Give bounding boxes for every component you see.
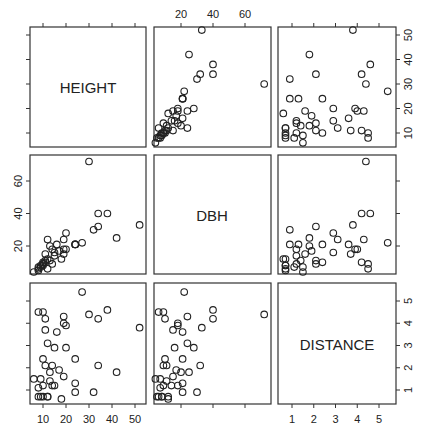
data-point — [345, 241, 352, 248]
data-point — [63, 344, 70, 351]
y-tick-label: 60 — [12, 175, 24, 187]
data-point — [31, 376, 38, 383]
data-point — [210, 307, 217, 314]
x-tick-label: 40 — [207, 8, 219, 20]
data-point — [35, 309, 42, 316]
data-point — [95, 223, 102, 230]
data-point — [384, 88, 391, 95]
y-tick-label: 50 — [402, 29, 414, 41]
data-point — [54, 329, 61, 336]
data-point — [191, 344, 198, 351]
y-tick-label: 40 — [12, 207, 24, 219]
data-point — [287, 241, 294, 248]
data-point — [287, 76, 294, 83]
data-point — [179, 95, 186, 102]
data-point — [367, 61, 374, 68]
panel-height-vs-distance — [278, 27, 396, 147]
x-tick-label: 40 — [106, 413, 118, 425]
data-point — [60, 313, 67, 320]
y-tick-label: 40 — [402, 53, 414, 65]
y-tick-label: 10 — [402, 127, 414, 139]
data-point — [330, 105, 337, 112]
data-point — [42, 316, 49, 323]
data-point — [186, 51, 193, 58]
data-point — [199, 324, 206, 331]
x-tick-label: 3 — [332, 413, 338, 425]
x-tick-label: 50 — [129, 413, 141, 425]
data-point — [90, 227, 97, 234]
data-point — [72, 241, 79, 248]
panel-dbh-vs-distance — [278, 155, 396, 274]
data-point — [171, 344, 178, 351]
data-point — [42, 327, 49, 334]
diag-label-height: HEIGHT — [60, 79, 117, 96]
data-point — [308, 113, 315, 120]
data-point — [179, 329, 186, 336]
data-point — [181, 289, 188, 296]
data-point — [113, 235, 120, 242]
data-point — [184, 125, 191, 132]
data-point — [367, 210, 374, 217]
data-point — [365, 266, 372, 273]
data-point — [49, 362, 56, 369]
y-tick-label: 20 — [402, 102, 414, 114]
data-point — [358, 71, 365, 78]
data-point — [181, 88, 188, 95]
data-point — [319, 95, 326, 102]
data-point — [306, 122, 313, 129]
diag-label-distance: DISTANCE — [300, 336, 375, 353]
data-point — [199, 27, 206, 34]
data-point — [345, 115, 352, 122]
data-point — [363, 81, 370, 88]
data-point — [51, 344, 58, 351]
data-point — [179, 356, 186, 363]
y-tick-label: 4 — [402, 320, 414, 326]
data-point — [313, 71, 320, 78]
data-point — [58, 396, 65, 403]
data-point — [191, 105, 198, 112]
data-point — [319, 259, 326, 266]
data-point — [95, 362, 102, 369]
x-tick-label: 60 — [239, 8, 251, 20]
y-tick-label: 3 — [402, 342, 414, 348]
data-point — [300, 132, 307, 139]
data-point — [313, 127, 320, 134]
data-point — [136, 222, 143, 229]
data-point — [300, 140, 307, 147]
data-point — [302, 108, 309, 115]
data-point — [361, 236, 368, 243]
panel-distance-vs-height — [30, 283, 146, 404]
data-point — [295, 95, 302, 102]
data-point — [363, 158, 370, 165]
data-point — [95, 316, 102, 323]
data-point — [302, 251, 309, 258]
data-point — [306, 51, 313, 58]
data-point — [44, 236, 51, 243]
data-point — [152, 376, 159, 383]
data-point — [184, 108, 191, 115]
x-tick-label: 2 — [311, 413, 317, 425]
data-point — [350, 222, 357, 229]
diagonal-labels: HEIGHT DBH DISTANCE — [60, 79, 375, 353]
data-point — [350, 27, 357, 34]
data-point — [42, 362, 49, 369]
x-tick-label: 20 — [60, 413, 72, 425]
data-point — [170, 373, 177, 380]
data-point — [136, 324, 143, 331]
data-point — [113, 369, 120, 376]
panel-distance-vs-dbh — [154, 283, 271, 404]
data-point — [79, 289, 86, 296]
x-tick-label: 10 — [37, 413, 49, 425]
x-tick-label: 20 — [175, 8, 187, 20]
data-point — [155, 309, 162, 316]
data-point — [210, 71, 217, 78]
diag-label-dbh: DBH — [196, 207, 228, 224]
data-point — [179, 389, 186, 396]
data-point — [60, 236, 67, 243]
data-point — [37, 376, 44, 383]
data-point — [63, 230, 70, 237]
x-tick-label: 1 — [289, 413, 295, 425]
data-point — [384, 240, 391, 247]
data-point — [95, 210, 102, 217]
data-point — [162, 316, 169, 323]
